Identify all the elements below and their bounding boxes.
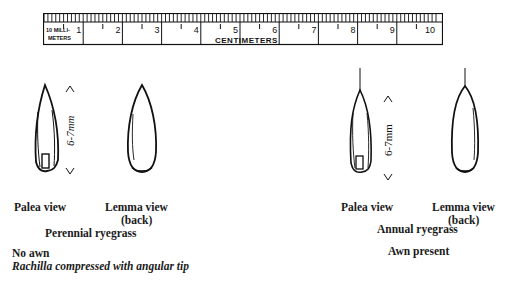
ruler-graphic: 10 MILLI- METERS CENTIMETERS 12345678910 <box>43 13 443 46</box>
annual-palea-label: Palea view <box>341 201 393 213</box>
svg-text:7: 7 <box>311 25 316 35</box>
ruler-unit-label: CENTIMETERS <box>215 36 278 45</box>
perennial-measure: 6-7mm <box>62 84 78 176</box>
perennial-palea-label: Palea view <box>14 201 66 213</box>
perennial-note-rachilla: Rachilla compressed with angular tip <box>12 260 189 272</box>
annual-note-awn: Awn present <box>388 245 449 257</box>
annual-lemma-drawing <box>447 68 483 188</box>
svg-text:6: 6 <box>272 25 277 35</box>
svg-text:3: 3 <box>155 25 160 35</box>
perennial-lemma-sub: (back) <box>121 214 152 226</box>
annual-palea-drawing <box>344 68 384 188</box>
annual-name: Annual ryegrass <box>377 223 458 235</box>
perennial-name: Perennial ryegrass <box>45 227 136 239</box>
svg-text:10: 10 <box>425 25 435 35</box>
perennial-lemma-drawing <box>124 82 160 186</box>
svg-text:1: 1 <box>76 25 81 35</box>
ruler: 10 MILLI- METERS CENTIMETERS 12345678910 <box>43 13 443 46</box>
annual-lemma-label: Lemma view <box>432 201 495 213</box>
perennial-note-awn: No awn <box>12 247 49 259</box>
svg-text:9: 9 <box>390 25 395 35</box>
ruler-small-label-1: 10 MILLI- <box>46 27 70 33</box>
svg-text:2: 2 <box>115 25 120 35</box>
svg-text:5: 5 <box>233 25 238 35</box>
perennial-measure-label: 6-7mm <box>64 115 76 146</box>
annual-measure-label: 6-7mm <box>382 124 394 156</box>
annual-measure: 6-7mm <box>380 94 396 182</box>
ruler-small-label-2: METERS <box>48 35 71 41</box>
svg-text:4: 4 <box>194 25 199 35</box>
perennial-lemma-label: Lemma view <box>105 201 168 213</box>
svg-text:8: 8 <box>351 25 356 35</box>
